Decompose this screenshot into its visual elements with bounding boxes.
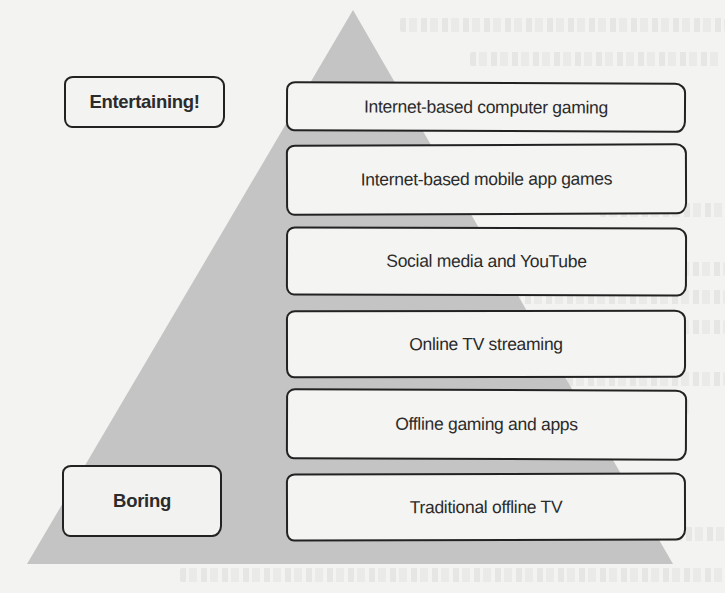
scale-label-top-text: Entertaining! bbox=[89, 91, 199, 113]
tier-2: Internet-based mobile app games bbox=[286, 143, 687, 215]
tier-5: Offline gaming and apps bbox=[286, 388, 687, 460]
tier-6: Traditional offline TV bbox=[286, 472, 686, 541]
scale-label-bottom-text: Boring bbox=[113, 490, 171, 512]
scale-label-top: Entertaining! bbox=[64, 76, 225, 128]
tier-6-label: Traditional offline TV bbox=[410, 496, 563, 517]
tier-1: Internet-based computer gaming bbox=[286, 81, 686, 133]
tier-3: Social media and YouTube bbox=[286, 226, 687, 296]
tier-3-label: Social media and YouTube bbox=[386, 251, 586, 273]
tier-4-label: Online TV streaming bbox=[409, 333, 563, 354]
tier-2-label: Internet-based mobile app games bbox=[361, 169, 612, 191]
tier-4: Online TV streaming bbox=[286, 310, 686, 379]
scale-label-bottom: Boring bbox=[62, 465, 222, 537]
tier-5-label: Offline gaming and apps bbox=[395, 414, 578, 436]
tier-1-label: Internet-based computer gaming bbox=[364, 96, 608, 118]
